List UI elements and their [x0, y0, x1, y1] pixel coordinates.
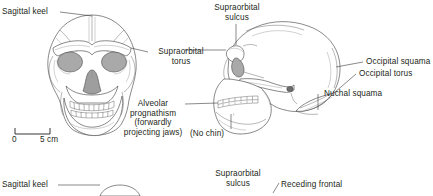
label-nuchal-squama: Nuchal squama [324, 89, 382, 99]
scale-bar-graphic [15, 128, 50, 134]
label-alveolar-prognathism-line3: (forwardly [135, 118, 172, 127]
leader-occipital-squama [336, 62, 363, 67]
label-alveolar-prognathism-line2: prognathism [130, 109, 176, 118]
scale-bar-start-label: 0 [12, 135, 17, 145]
leader-alveolar-prognathism [185, 103, 218, 104]
figure-canvas: Sagittal keel Supraorbital torus Supraor… [0, 0, 433, 196]
next-label-supraorbital-sulcus-line2: sulcus [226, 179, 250, 188]
label-occipital-squama: Occipital squama [366, 57, 430, 67]
next-label-supraorbital-sulcus: Supraorbital sulcus [206, 169, 270, 188]
label-supraorbital-torus: Supraorbital torus [150, 47, 212, 66]
label-supraorbital-sulcus-line1: Supraorbital [214, 3, 259, 12]
leader-lines [60, 12, 363, 129]
label-sagittal-keel: Sagittal keel [2, 7, 48, 17]
lateral-skull-drawing [214, 22, 340, 134]
label-occipital-torus: Occipital torus [359, 69, 412, 79]
next-label-receding-frontal: Receding frontal [281, 180, 342, 190]
label-supraorbital-sulcus: Supraorbital sulcus [205, 3, 269, 22]
next-label-sagittal-keel: Sagittal keel [2, 180, 48, 190]
label-supraorbital-torus-line1: Supraorbital [158, 47, 203, 56]
label-alveolar-prognathism-line1: Alveolar [138, 99, 168, 108]
leader-next-receding-frontal [273, 183, 279, 193]
leader-supraorbital-torus [131, 48, 148, 52]
next-label-supraorbital-sulcus-line1: Supraorbital [215, 169, 260, 178]
leader-sagittal-keel [60, 12, 92, 16]
label-alveolar-prognathism-line4: projecting jaws) [124, 128, 182, 137]
label-alveolar-prognathism: Alveolar prognathism (forwardly projecti… [120, 99, 186, 137]
scale-bar-end-label: 5 cm [40, 135, 58, 145]
label-supraorbital-torus-line2: torus [172, 57, 191, 66]
label-no-chin: (No chin) [190, 129, 224, 139]
label-supraorbital-sulcus-line2: sulcus [225, 13, 249, 22]
